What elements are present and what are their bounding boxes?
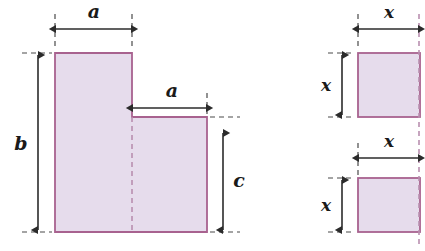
l-shape-group: a a b c	[14, 0, 245, 232]
bottom-square	[358, 178, 420, 232]
l-shape-polygon	[55, 53, 207, 232]
dimension-label-x-top-width: x	[383, 2, 395, 22]
dimension-label-a-top: a	[88, 0, 100, 22]
dimension-label-a-middle: a	[166, 79, 178, 101]
two-squares-group: x x x x	[320, 2, 420, 246]
dimension-label-x-bottom-height: x	[320, 195, 332, 215]
dimension-label-x-bottom-width: x	[383, 131, 395, 151]
dimension-label-x-top-height: x	[320, 75, 332, 95]
geometry-figure-canvas: a a b c x	[0, 0, 425, 251]
geometry-diagram: a a b c x	[0, 0, 425, 251]
top-square	[358, 53, 420, 117]
dimension-label-b: b	[14, 132, 27, 154]
dimension-label-c: c	[233, 169, 245, 191]
